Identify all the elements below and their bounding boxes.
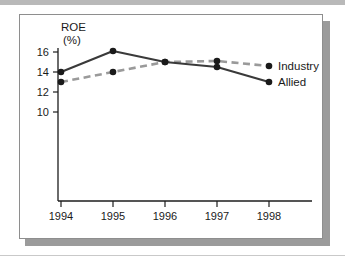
x-tick-label-1994: 1994 bbox=[49, 210, 73, 222]
chart-title-line2: (%) bbox=[63, 34, 81, 46]
data-point-industry-1997 bbox=[214, 58, 221, 65]
x-tick-label-1996: 1996 bbox=[153, 210, 177, 222]
plot-surface: ROE (%) 16 14 12 10 bbox=[20, 15, 324, 240]
scan-band-bottom bbox=[0, 255, 345, 262]
data-point-industry-1994 bbox=[58, 79, 65, 86]
data-point-allied-1995 bbox=[110, 48, 117, 55]
y-tick-label-12: 12 bbox=[37, 86, 49, 98]
data-point-industry-1995 bbox=[110, 69, 117, 76]
series-line-allied bbox=[61, 51, 269, 82]
x-tick-label-1998: 1998 bbox=[257, 210, 281, 222]
data-point-allied-1997 bbox=[214, 64, 221, 71]
y-tick-label-16: 16 bbox=[37, 46, 49, 58]
chart-title-line1: ROE bbox=[61, 21, 86, 33]
y-tick-label-10: 10 bbox=[37, 106, 49, 118]
chart-panel: ROE (%) 16 14 12 10 bbox=[19, 14, 323, 239]
data-point-industry-1998 bbox=[266, 63, 273, 70]
roe-line-chart-svg: ROE (%) 16 14 12 10 bbox=[20, 15, 324, 240]
y-tick-label-14: 14 bbox=[37, 66, 49, 78]
legend-label-allied: Allied bbox=[278, 76, 306, 88]
x-tick-label-1997: 1997 bbox=[205, 210, 229, 222]
figure-root: ROE (%) 16 14 12 10 bbox=[0, 0, 345, 262]
data-point-allied-1998 bbox=[266, 79, 273, 86]
x-tick-label-1995: 1995 bbox=[101, 210, 125, 222]
data-point-allied-1996 bbox=[162, 59, 169, 66]
scan-band-top bbox=[0, 0, 345, 5]
data-point-allied-1994 bbox=[58, 69, 65, 76]
legend-label-industry: Industry bbox=[278, 60, 319, 72]
